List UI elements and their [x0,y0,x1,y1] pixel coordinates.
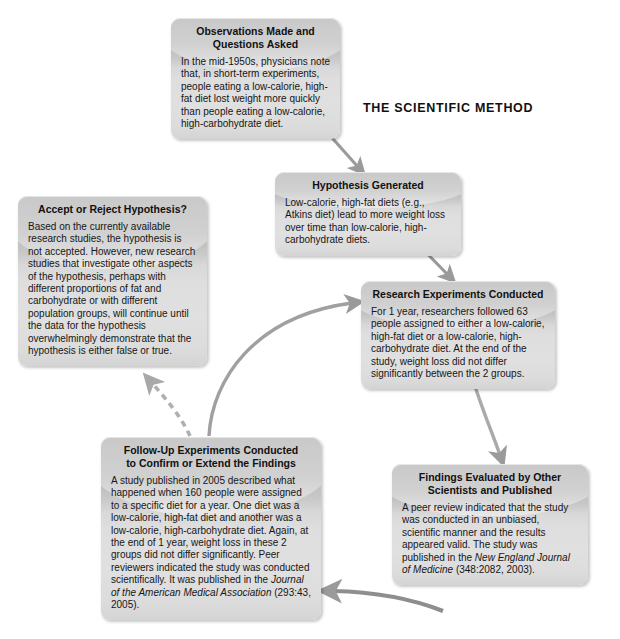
node-title-line-1: Follow-Up Experiments Conducted [124,444,298,456]
node-accept-or-reject-hypothesis[interactable]: Accept or Reject Hypothesis? Based on th… [18,196,207,366]
node-follow-up-experiments-conducted[interactable]: Follow-Up Experiments Conducted to Confi… [101,437,321,620]
node-title: Findings Evaluated by Other Scientists a… [402,471,578,497]
diagram-title: THE SCIENTIFIC METHOD [363,101,533,115]
node-body-text-1: A study published in 2005 described what… [111,475,309,585]
connector-research-to-findings [473,380,500,455]
node-title-line-1: Findings Evaluated by Other [419,471,561,483]
connector-findings-to-followup [333,591,443,611]
node-title: Research Experiments Conducted [371,288,545,301]
node-body: A peer review indicated that the study w… [402,502,578,576]
node-title: Follow-Up Experiments Conducted to Confi… [111,444,311,470]
node-title-line-2: Scientists and Published [428,484,552,496]
node-body: Low-calorie, high-fat diets (e.g., Atkin… [285,197,451,247]
node-observations-made-and-questions-asked[interactable]: Observations Made and Questions Asked In… [171,18,340,139]
node-hypothesis-generated[interactable]: Hypothesis Generated Low-calorie, high-f… [275,172,461,256]
node-title: Accept or Reject Hypothesis? [28,203,197,216]
node-body: Based on the currently available researc… [28,221,197,357]
connector-followup-to-accept [152,383,190,436]
node-findings-evaluated-and-published[interactable]: Findings Evaluated by Other Scientists a… [392,464,588,585]
node-body-text-2: (348:2082, 2003). [453,564,535,575]
node-body: For 1 year, researchers followed 63 peop… [371,306,545,380]
connector-followup-to-research [209,303,352,436]
node-body: In the mid-1950s, physicians note that, … [181,56,330,130]
node-title-line-1: Observations Made and [196,25,314,37]
node-title: Hypothesis Generated [285,179,451,192]
node-title-line-2: Questions Asked [213,38,298,50]
node-title: Observations Made and Questions Asked [181,25,330,51]
node-title-line-2: to Confirm or Extend the Findings [126,457,296,469]
scientific-method-diagram: THE SCIENTIFIC METHOD Observations Made … [0,0,620,639]
node-research-experiments-conducted[interactable]: Research Experiments Conducted For 1 yea… [361,281,555,389]
node-body: A study published in 2005 described what… [111,475,311,611]
